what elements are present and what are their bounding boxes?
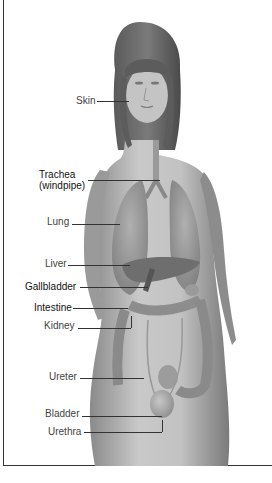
leader-intestine: [73, 308, 128, 309]
label-liver: Liver: [45, 258, 67, 269]
label-bladder: Bladder: [45, 408, 79, 419]
leader-gallbladder: [80, 287, 148, 288]
label-kidney: Kidney: [44, 320, 75, 331]
leader-urethra: [84, 432, 162, 433]
anatomy-figure: [0, 0, 272, 483]
label-intestine: Intestine: [34, 302, 72, 313]
leader-ureter: [80, 378, 144, 379]
leader-skin: [97, 101, 129, 102]
leader-kidney-vertical: [131, 316, 132, 328]
leader-liver: [68, 265, 130, 266]
label-trachea-sub: (windpipe): [39, 180, 85, 191]
leader-kidney: [78, 328, 131, 329]
label-gallbladder: Gallbladder: [25, 281, 76, 292]
leader-urethra-vertical: [162, 420, 163, 432]
label-lung: Lung: [47, 216, 69, 227]
leader-bladder: [82, 416, 162, 417]
label-ureter: Ureter: [49, 371, 77, 382]
label-trachea: Trachea: [39, 169, 75, 180]
label-skin: Skin: [76, 95, 95, 106]
bladder: [150, 390, 174, 418]
label-urethra: Urethra: [48, 426, 81, 437]
leader-lung: [72, 224, 120, 225]
leader-trachea: [88, 180, 160, 181]
